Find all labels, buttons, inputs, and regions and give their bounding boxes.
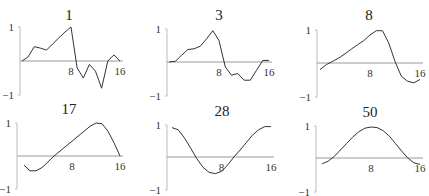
x-tick-label-16: 16 — [415, 67, 427, 79]
panel-title: 1 — [65, 7, 73, 23]
x-tick-label-8: 8 — [368, 162, 374, 174]
x-tick-label-16: 16 — [115, 65, 127, 77]
x-tick-label-8: 8 — [69, 160, 75, 172]
y-tick-label-top: 1 — [305, 120, 311, 132]
y-tick-label-top: 1 — [306, 24, 312, 36]
y-tick-label-bottom: −1 — [298, 186, 310, 196]
x-tick-label-8: 8 — [68, 65, 74, 77]
panel-28: 281−1816 — [149, 103, 277, 196]
y-tick-label-top: 1 — [9, 21, 15, 33]
panel-title: 8 — [365, 7, 373, 23]
series-line — [322, 127, 420, 164]
x-tick-label-8: 8 — [367, 67, 373, 79]
panel-50: 501−1816 — [298, 104, 426, 196]
x-tick-label-16: 16 — [264, 66, 276, 78]
y-tick-label-bottom: −1 — [2, 89, 14, 101]
panel-8: 81−1816 — [299, 7, 426, 103]
series-line — [22, 27, 120, 88]
panel-17: 171−1816 — [0, 101, 126, 195]
y-tick-label-top: 1 — [6, 117, 12, 129]
y-tick-label-bottom: −1 — [299, 91, 311, 103]
y-tick-label-bottom: −1 — [0, 183, 11, 195]
y-tick-label-top: 1 — [156, 119, 162, 131]
y-tick-label-top: 1 — [156, 23, 162, 35]
panel-title: 3 — [215, 7, 223, 23]
y-tick-label-bottom: −1 — [149, 184, 161, 196]
panel-title: 17 — [62, 101, 78, 117]
small-multiples-line-chart: 11−181631−181681−1816171−1816281−1816501… — [0, 0, 429, 196]
y-tick-label-bottom: −1 — [149, 90, 161, 102]
x-tick-label-8: 8 — [216, 66, 222, 78]
panel-1: 11−1816 — [2, 7, 126, 101]
panel-title: 28 — [215, 103, 230, 119]
x-tick-label-16: 16 — [266, 161, 278, 173]
x-tick-label-16: 16 — [115, 160, 127, 172]
panel-title: 50 — [363, 104, 378, 120]
panel-3: 31−1816 — [149, 7, 275, 102]
